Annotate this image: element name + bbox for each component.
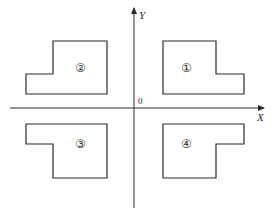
origin-label: 0 bbox=[138, 96, 143, 106]
shape-4-label: ④ bbox=[181, 137, 192, 151]
shape-3-label: ③ bbox=[75, 137, 86, 151]
shape-2: ② bbox=[26, 41, 107, 94]
shape-1-outline bbox=[163, 41, 244, 94]
shape-1-label: ① bbox=[181, 61, 192, 75]
shape-1: ① bbox=[163, 41, 244, 94]
shape-4: ④ bbox=[163, 124, 244, 178]
shape-3-outline bbox=[26, 124, 107, 178]
shape-3: ③ bbox=[26, 124, 107, 178]
y-axis-label: Y bbox=[139, 9, 147, 21]
shape-2-outline bbox=[26, 41, 107, 94]
shape-2-label: ② bbox=[75, 61, 86, 75]
coordinate-diagram: Y X 0 ① ② ③ ④ bbox=[0, 0, 274, 215]
shape-4-outline bbox=[163, 124, 244, 178]
x-axis-label: X bbox=[256, 111, 265, 123]
